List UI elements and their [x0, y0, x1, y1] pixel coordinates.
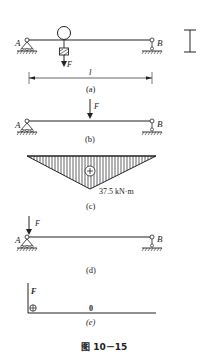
positive-sign-icon [30, 305, 36, 311]
panel-a: A B F l (a) [14, 27, 196, 95]
zero-value: 0 [89, 304, 93, 313]
support-label-a: A [14, 235, 21, 245]
support-label-b: B [157, 119, 163, 129]
panel-label-c: (c) [86, 201, 96, 211]
support-label-b: B [157, 38, 163, 48]
i-beam-section-icon [184, 30, 196, 52]
max-moment-value: 37.5 kN·m [99, 187, 134, 196]
span-label: l [89, 67, 92, 77]
pulley-wheel-icon [58, 27, 71, 40]
force-label: F [34, 219, 40, 228]
support-label-b: B [157, 234, 163, 244]
support-label-a: A [14, 120, 21, 130]
panel-c: ⊕ 37.5 kN·m (c) [27, 156, 156, 211]
panel-e: F 0 (e) [28, 283, 156, 327]
panel-b: F A B (b) [14, 99, 163, 144]
weight-block-icon [60, 48, 69, 55]
panel-d: F A B (d) [14, 216, 163, 275]
panel-label-a: (a) [86, 84, 96, 94]
force-label: F [93, 102, 99, 111]
figure-caption: 图 10－15 [81, 342, 127, 352]
force-label: F [66, 60, 72, 69]
support-label-a: A [14, 38, 21, 48]
panel-label-d: (d) [86, 265, 96, 275]
panel-label-e: (e) [86, 317, 96, 327]
beam-diagram-figure: A B F l (a) [0, 0, 207, 360]
axis-label-f: F [30, 287, 37, 296]
panel-label-b: (b) [85, 134, 95, 144]
